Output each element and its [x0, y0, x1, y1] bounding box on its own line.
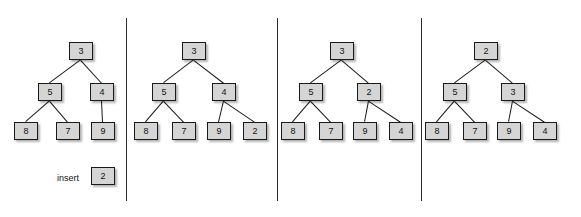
tree-node: 5 — [38, 83, 62, 101]
tree-node: 2 — [243, 122, 267, 140]
tree-node: 2 — [474, 42, 498, 60]
tree-node: 5 — [299, 83, 323, 101]
tree-node: 9 — [207, 122, 231, 140]
panel-4: 2538794 — [0, 0, 581, 217]
insert-value-node: 2 — [91, 167, 115, 185]
tree-node: 9 — [91, 122, 115, 140]
tree-edge — [512, 101, 545, 123]
tree-node: 7 — [172, 122, 196, 140]
tree-node: 3 — [182, 42, 206, 60]
tree-node: 7 — [463, 122, 487, 140]
tree-edge — [508, 101, 513, 122]
tree-node: 4 — [533, 122, 557, 140]
tree-node: 5 — [443, 83, 467, 101]
tree-node: 9 — [353, 122, 377, 140]
tree-node: 8 — [281, 122, 305, 140]
panel-divider-3 — [421, 18, 422, 201]
tree-edge — [485, 60, 513, 84]
tree-node: 8 — [425, 122, 449, 140]
tree-edge — [436, 100, 455, 122]
tree-node: 3 — [330, 42, 354, 60]
panel-divider-1 — [126, 18, 127, 201]
tree-node: 3 — [501, 83, 525, 101]
heap-insert-figure: 354879insert2354879235287942538794 — [0, 0, 581, 217]
panel-divider-2 — [277, 18, 278, 201]
tree-node: 4 — [212, 83, 236, 101]
tree-node: 4 — [90, 83, 114, 101]
tree-node: 8 — [14, 122, 38, 140]
tree-node: 8 — [134, 122, 158, 140]
tree-edge — [454, 101, 475, 123]
tree-node: 2 — [357, 83, 381, 101]
insert-label: insert — [57, 174, 79, 183]
tree-node: 5 — [152, 83, 176, 101]
tree-node: 7 — [319, 122, 343, 140]
tree-node: 4 — [389, 122, 413, 140]
tree-node: 9 — [497, 122, 521, 140]
tree-edge — [454, 59, 486, 83]
tree-node: 7 — [56, 122, 80, 140]
tree-node: 3 — [69, 42, 93, 60]
